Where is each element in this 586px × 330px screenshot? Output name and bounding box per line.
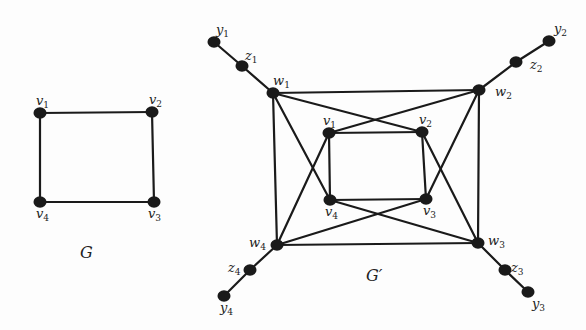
vertex-label-G-v4: v4 (36, 206, 49, 223)
edge-G-v1-v2 (40, 112, 152, 113)
vertex-Gprime-y2 (543, 35, 556, 47)
graph-title-G: G (80, 243, 93, 262)
edge-Gprime-v1-v2 (329, 132, 422, 133)
vertex-label-Gprime-y2: y2 (553, 21, 567, 38)
vertex-Gprime-z2 (510, 56, 523, 68)
vertex-Gprime-w2 (473, 84, 486, 96)
vertex-label-Gprime-w4: w4 (249, 235, 266, 252)
edge-Gprime-w2-w3 (478, 90, 479, 243)
edge-Gprime-v2-v3 (422, 132, 426, 199)
edge-Gprime-w2-v3 (426, 90, 479, 199)
edge-Gprime-v3-v4 (330, 199, 426, 200)
vertex-label-Gprime-w1: w1 (273, 73, 290, 90)
vertex-Gprime-w3 (472, 237, 485, 249)
vertex-label-G-v1: v1 (36, 93, 49, 110)
vertex-label-Gprime-v3: v3 (423, 203, 436, 220)
vertex-label-Gprime-w2: w2 (495, 84, 512, 101)
vertex-Gprime-w4 (271, 239, 284, 251)
vertex-label-Gprime-y3: y3 (531, 296, 545, 313)
edge-Gprime-w3-w4 (277, 243, 478, 245)
edge-Gprime-w1-w2 (273, 90, 479, 93)
vertex-label-Gprime-y1: y1 (215, 22, 229, 39)
vertex-label-Gprime-z3: z3 (510, 260, 524, 277)
vertex-label-G-v3: v3 (148, 206, 161, 223)
vertex-label-Gprime-y4: y4 (219, 300, 233, 317)
vertex-Gprime-w1 (267, 87, 280, 99)
vertex-label-Gprime-v1: v1 (323, 113, 336, 130)
vertex-label-Gprime-z2: z2 (529, 57, 543, 74)
vertex-label-Gprime-w3: w3 (488, 233, 505, 250)
vertex-label-Gprime-v4: v4 (325, 204, 338, 221)
vertex-label-Gprime-z1: z1 (244, 48, 258, 65)
vertex-Gprime-z4 (244, 264, 257, 276)
edge-Gprime-v4-v1 (329, 133, 330, 200)
graph-figure: v1v2v3v4w1w2w3w4v1v2v3v4z1z2z3z4y1y2y3y4… (0, 0, 586, 330)
edge-G-v2-v3 (152, 112, 154, 202)
edge-Gprime-w4-w1 (273, 93, 277, 245)
graph-title-G-prime: G′ (366, 266, 383, 285)
vertex-Gprime-y1 (208, 36, 221, 48)
vertex-label-Gprime-z4: z4 (227, 260, 241, 277)
figure: v1v2v3v4w1w2w3w4v1v2v3v4z1z2z3z4y1y2y3y4… (0, 0, 586, 330)
vertex-Gprime-z3 (499, 264, 512, 276)
edge-Gprime-w1-v4 (273, 93, 330, 200)
vertex-label-G-v2: v2 (149, 92, 162, 109)
vertex-label-Gprime-v2: v2 (419, 112, 432, 129)
